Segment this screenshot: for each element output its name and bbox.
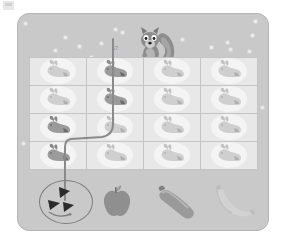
bunny-icon [214, 87, 244, 111]
food-banana[interactable]: banana [211, 178, 261, 220]
grid-cell-r2-c2[interactable] [86, 85, 143, 113]
game-board[interactable]: 17 watermelon [17, 13, 269, 231]
bunny-grid[interactable] [29, 57, 257, 170]
background-speck [54, 49, 57, 52]
grid-cell-r4-c3[interactable] [143, 141, 200, 169]
grid-cell-r1-c3[interactable] [143, 57, 200, 85]
bunny-icon [43, 87, 73, 111]
grid-cell-r1-c4[interactable] [200, 57, 257, 85]
grid-cell-r4-c2[interactable] [86, 141, 143, 169]
food-apple[interactable]: apple [91, 178, 141, 220]
background-speck [100, 42, 103, 45]
grid-line-vertical [257, 57, 258, 170]
screenshot-corner-mark [3, 1, 14, 10]
bunny-icon [43, 115, 73, 139]
grid-cell-r3-c1[interactable] [29, 113, 86, 141]
board-hint-text: 17 [112, 45, 118, 51]
food-choices[interactable]: watermelon apple zucchini [29, 174, 257, 224]
grid-cell-r3-c2[interactable] [86, 113, 143, 141]
grid-cell-r1-c1[interactable] [29, 57, 86, 85]
bunny-icon [157, 115, 187, 139]
background-speck [22, 142, 25, 145]
grid-cell-r3-c4[interactable] [200, 113, 257, 141]
background-speck [64, 36, 67, 39]
bunny-icon [214, 59, 244, 83]
background-speck [229, 48, 232, 51]
background-speck [226, 41, 229, 44]
bunny-icon [100, 143, 130, 167]
background-speck [24, 22, 27, 25]
grid-cell-r4-c4[interactable] [200, 141, 257, 169]
background-speck [114, 28, 117, 31]
grid-cell-r1-c2[interactable] [86, 57, 143, 85]
bunny-icon [157, 87, 187, 111]
background-speck [251, 34, 254, 37]
bunny-icon [100, 59, 130, 83]
background-speck [181, 38, 184, 41]
bunny-icon [157, 59, 187, 83]
selected-target-ring [39, 180, 93, 224]
grid-cell-r4-c1[interactable] [29, 141, 86, 169]
grid-cell-r2-c1[interactable] [29, 85, 86, 113]
background-speck [261, 106, 264, 109]
background-speck [254, 20, 257, 23]
grid-cell-r2-c4[interactable] [200, 85, 257, 113]
bunny-icon [43, 143, 73, 167]
screenshot-root: 17 watermelon [0, 0, 283, 240]
bunny-icon [157, 143, 187, 167]
bunny-icon [214, 143, 244, 167]
background-speck [210, 46, 213, 49]
bunny-icon [43, 59, 73, 83]
background-speck [248, 50, 251, 53]
bunny-icon [100, 115, 130, 139]
bunny-icon [100, 87, 130, 111]
bunny-icon [214, 115, 244, 139]
grid-cell-r2-c3[interactable] [143, 85, 200, 113]
grid-cell-r3-c3[interactable] [143, 113, 200, 141]
background-speck [78, 45, 81, 48]
food-zucchini[interactable]: zucchini [151, 178, 201, 220]
food-watermelon[interactable]: watermelon [33, 178, 83, 220]
background-speck [121, 31, 124, 34]
